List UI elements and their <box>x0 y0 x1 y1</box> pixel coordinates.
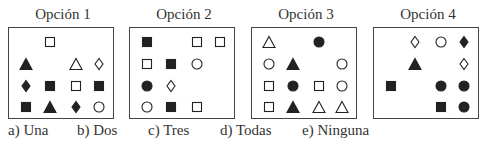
diamond-outline-icon <box>92 57 106 71</box>
square-outline-icon <box>262 79 276 93</box>
square-outline-icon <box>213 35 227 49</box>
circle-outline-icon <box>140 100 154 114</box>
circle-filled-icon <box>312 35 326 49</box>
circle-outline-icon <box>335 57 349 71</box>
option-title: Opción 1 <box>8 6 118 23</box>
triangle-filled-icon <box>286 57 300 71</box>
square-filled-icon <box>43 79 57 93</box>
diamond-filled-icon <box>19 79 33 93</box>
option-box <box>129 27 235 119</box>
answer-c[interactable]: c) Tres <box>148 122 189 139</box>
diamond-filled-icon <box>457 35 471 49</box>
triangle-filled-icon <box>43 100 57 114</box>
square-outline-icon <box>262 100 276 114</box>
circle-filled-icon <box>457 100 471 114</box>
square-outline-icon <box>190 100 204 114</box>
circle-outline-icon <box>190 57 204 71</box>
circle-filled-icon <box>140 79 154 93</box>
square-outline-icon <box>190 35 204 49</box>
diamond-outline-icon <box>457 57 471 71</box>
circle-filled-icon <box>434 79 448 93</box>
option-box <box>373 27 479 119</box>
square-filled-icon <box>92 79 106 93</box>
option-box <box>251 27 357 119</box>
square-outline-icon <box>312 79 326 93</box>
square-outline-icon <box>43 35 57 49</box>
answer-b[interactable]: b) Dos <box>77 122 117 139</box>
triangle-outline-icon <box>335 100 349 114</box>
answer-a[interactable]: a) Una <box>8 122 48 139</box>
circle-filled-icon <box>286 79 300 93</box>
diamond-outline-icon <box>164 79 178 93</box>
square-filled-icon <box>164 57 178 71</box>
square-filled-icon <box>384 79 398 93</box>
diamond-outline-icon <box>408 35 422 49</box>
square-filled-icon <box>434 100 448 114</box>
triangle-outline-icon <box>312 100 326 114</box>
square-filled-icon <box>140 35 154 49</box>
option-box <box>8 27 114 119</box>
square-filled-icon <box>19 100 33 114</box>
square-filled-icon <box>164 100 178 114</box>
diamond-filled-icon <box>69 100 83 114</box>
square-outline-icon <box>69 79 83 93</box>
circle-outline-icon <box>335 79 349 93</box>
answer-d[interactable]: d) Todas <box>220 122 272 139</box>
circle-outline-icon <box>262 57 276 71</box>
triangle-filled-icon <box>286 100 300 114</box>
option-title: Opción 3 <box>251 6 361 23</box>
option-title: Opción 2 <box>129 6 239 23</box>
answer-e[interactable]: e) Ninguna <box>302 122 369 139</box>
circle-filled-icon <box>457 79 471 93</box>
circle-outline-icon <box>92 100 106 114</box>
square-outline-icon <box>140 57 154 71</box>
triangle-outline-icon <box>262 35 276 49</box>
circle-outline-icon <box>434 35 448 49</box>
triangle-outline-icon <box>69 57 83 71</box>
triangle-filled-icon <box>19 57 33 71</box>
option-title: Opción 4 <box>373 6 483 23</box>
triangle-filled-icon <box>408 57 422 71</box>
